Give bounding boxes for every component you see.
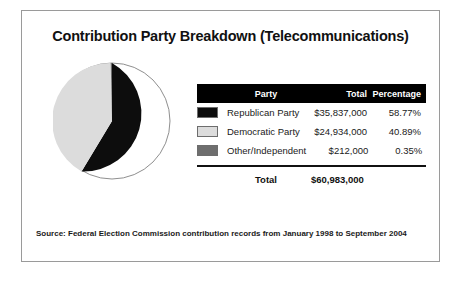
- cell-percentage: 40.89%: [371, 126, 426, 137]
- total-label: Total: [227, 174, 305, 185]
- table-row: Other/Independent $212,000 0.35%: [197, 141, 426, 160]
- swatch-cell: [197, 107, 227, 118]
- column-header-party: Party: [227, 89, 305, 99]
- cell-total: $35,837,000: [305, 107, 371, 118]
- breakdown-table: Party Total Percentage Republican Party …: [197, 84, 426, 188]
- cell-party: Other/Independent: [227, 145, 306, 156]
- legend-swatch-democratic: [197, 126, 218, 137]
- table-total-rule: [197, 165, 426, 167]
- figure-card: Contribution Party Breakdown (Telecommun…: [21, 10, 440, 262]
- cell-percentage: 0.35%: [372, 145, 427, 156]
- swatch-cell: [197, 145, 227, 156]
- cell-party: Democratic Party: [227, 126, 305, 137]
- column-header-total: Total: [305, 89, 371, 99]
- cell-total: $212,000: [306, 145, 372, 156]
- table-total-row: Total $60,983,000: [197, 170, 426, 188]
- pie-chart-svg: [53, 62, 171, 180]
- page-title: Contribution Party Breakdown (Telecommun…: [22, 28, 439, 44]
- legend-swatch-republican: [197, 107, 218, 118]
- legend-swatch-other: [197, 145, 218, 156]
- column-header-percentage: Percentage: [371, 89, 426, 99]
- cell-total: $24,934,000: [305, 126, 371, 137]
- swatch-cell: [197, 126, 227, 137]
- table-header-row: Party Total Percentage: [197, 84, 426, 103]
- pie-chart: [53, 62, 171, 180]
- cell-percentage: 58.77%: [371, 107, 426, 118]
- source-note: Source: Federal Election Commission cont…: [36, 229, 407, 238]
- table-row: Democratic Party $24,934,000 40.89%: [197, 122, 426, 141]
- table-row: Republican Party $35,837,000 58.77%: [197, 103, 426, 122]
- cell-party: Republican Party: [227, 107, 305, 118]
- total-value: $60,983,000: [305, 174, 371, 185]
